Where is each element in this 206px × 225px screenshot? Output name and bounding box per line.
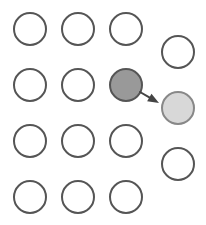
circle-grid-r3c3-empty[interactable] <box>110 125 142 157</box>
circle-side-1-empty[interactable] <box>162 36 194 68</box>
circle-grid-r4c2-empty[interactable] <box>62 181 94 213</box>
diagram-canvas <box>0 0 206 225</box>
circle-grid-r4c3-empty[interactable] <box>110 181 142 213</box>
circle-grid-r2c3-source[interactable] <box>110 69 142 101</box>
side-column <box>162 36 194 180</box>
circle-grid-r2c2-empty[interactable] <box>62 69 94 101</box>
circle-grid-r1c1-empty[interactable] <box>14 13 46 45</box>
circle-grid-diagram <box>0 0 206 225</box>
circle-grid-r4c1-empty[interactable] <box>14 181 46 213</box>
circle-side-2-target[interactable] <box>162 92 194 124</box>
circle-side-3-empty[interactable] <box>162 148 194 180</box>
circle-grid-r3c1-empty[interactable] <box>14 125 46 157</box>
circle-grid-r1c2-empty[interactable] <box>62 13 94 45</box>
circle-grid-r3c2-empty[interactable] <box>62 125 94 157</box>
circle-grid-r2c1-empty[interactable] <box>14 69 46 101</box>
circle-grid-r1c3-empty[interactable] <box>110 13 142 45</box>
